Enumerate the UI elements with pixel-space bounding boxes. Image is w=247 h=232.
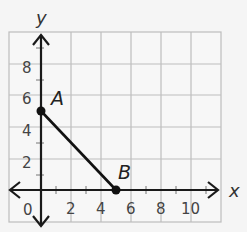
point-b bbox=[112, 186, 121, 195]
x-tick-8: 8 bbox=[156, 200, 166, 218]
y-tick-4: 4 bbox=[22, 122, 32, 140]
origin-label: 0 bbox=[23, 201, 33, 219]
x-axis-label: x bbox=[228, 180, 240, 201]
y-tick-6: 6 bbox=[22, 90, 32, 108]
x-tick-2: 2 bbox=[66, 200, 76, 218]
point-a bbox=[37, 107, 46, 116]
point-a-label: A bbox=[49, 87, 64, 109]
y-axis-label: y bbox=[35, 7, 47, 28]
point-b-label: B bbox=[118, 161, 131, 183]
x-tick-10: 10 bbox=[181, 200, 200, 218]
x-tick-4: 4 bbox=[96, 200, 106, 218]
x-tick-6: 6 bbox=[126, 200, 136, 218]
coordinate-plane: y x A B 0 2 4 6 8 10 2 4 6 8 bbox=[0, 0, 247, 232]
y-tick-8: 8 bbox=[22, 59, 32, 77]
y-tick-2: 2 bbox=[22, 154, 32, 172]
